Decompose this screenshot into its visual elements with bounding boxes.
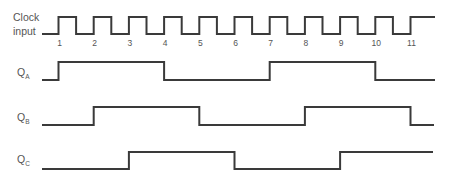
qb-label-sub: B (25, 118, 29, 125)
clock-pulse-number: 11 (407, 38, 416, 48)
clock-pulse-number: 1 (57, 38, 62, 48)
clock-label-line2: input (13, 25, 36, 37)
qc-label-main: Q (17, 153, 25, 165)
clock-pulse-number: 7 (268, 38, 273, 48)
clock-waveform (42, 17, 435, 34)
qa-label: QA (17, 66, 30, 80)
qa-label-main: Q (17, 66, 25, 78)
qa-waveform (42, 62, 435, 80)
qb-waveform (42, 107, 434, 125)
clock-pulse-number: 9 (339, 38, 344, 48)
clock-pulse-number: 5 (198, 38, 203, 48)
clock-pulse-number: 3 (128, 38, 133, 48)
qc-label: QC (17, 153, 30, 167)
clock-pulse-number: 6 (233, 38, 238, 48)
qb-label-main: Q (17, 111, 25, 123)
clock-pulse-number: 10 (372, 38, 382, 48)
clock-pulse-number: 8 (304, 38, 309, 48)
timing-diagram: Clock input QA QB QC 1234567891011 (0, 0, 449, 184)
clock-label-line1: Clock (13, 11, 40, 23)
clock-pulse-numbers: 1234567891011 (57, 38, 416, 48)
qc-waveform (42, 152, 433, 169)
qa-label-sub: A (25, 73, 30, 80)
clock-pulse-number: 2 (92, 38, 97, 48)
clock-pulse-number: 4 (163, 38, 168, 48)
qc-label-sub: C (25, 160, 30, 167)
qb-label: QB (17, 111, 30, 125)
